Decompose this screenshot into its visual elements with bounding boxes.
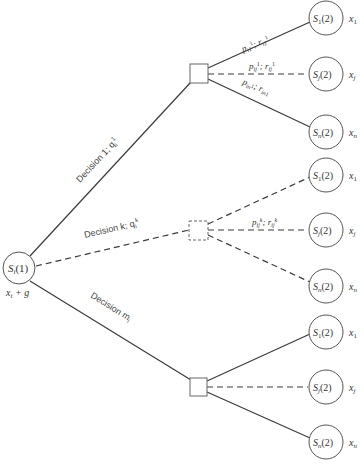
decision-1-label: Decision 1; qi1 bbox=[73, 135, 121, 185]
edge-label-d1-sj: pij1; rij1 bbox=[248, 61, 275, 72]
edge-dm-s1 bbox=[207, 334, 310, 381]
decision-node-k bbox=[189, 221, 208, 240]
decision-node-1 bbox=[190, 64, 208, 83]
decision-k-label: Decision k; qik bbox=[83, 216, 141, 240]
state-node-dk-s1: S1(2) x1 bbox=[309, 158, 357, 192]
state-node-dk-sj: Sj(2) xj bbox=[309, 213, 355, 247]
svg-text:xn: xn bbox=[348, 281, 357, 294]
svg-text:xn: xn bbox=[348, 127, 357, 140]
state-node-d1-s1: S1(2) x1 bbox=[309, 1, 357, 35]
svg-text:x1: x1 bbox=[348, 170, 357, 183]
state-node-dm-sj: Sj(2) xj bbox=[309, 370, 355, 404]
decision-m-label: Decision mi bbox=[88, 290, 133, 324]
svg-text:xj: xj bbox=[348, 225, 355, 238]
state-node-dk-sn: Sn(2) xn bbox=[309, 269, 357, 303]
edge-decision-m bbox=[30, 281, 191, 380]
decision-node-m bbox=[190, 378, 207, 396]
state-node-d1-sn: Sn(2) xn bbox=[309, 115, 357, 149]
edge-dm-sn bbox=[207, 392, 310, 438]
edge-label-d1-sn: pin1; rin1 bbox=[240, 76, 272, 97]
edge-dk-sn bbox=[208, 235, 310, 282]
root-value-label: xi + g bbox=[5, 287, 29, 300]
state-node-d1-sj: Sj(2) xj bbox=[309, 57, 355, 91]
svg-text:xj: xj bbox=[348, 382, 355, 395]
root-state-label: Si(1) bbox=[8, 262, 29, 276]
svg-text:x1: x1 bbox=[348, 13, 357, 26]
edge-decision-k bbox=[36, 230, 189, 266]
state-node-dm-s1: S1(2) x1 bbox=[309, 315, 357, 349]
svg-text:x1: x1 bbox=[348, 327, 357, 340]
decision-tree-diagram: Si(1) xi + g Decision 1; qi1 Decision k;… bbox=[0, 0, 364, 464]
edge-label-dk-sj: pijk; rijk bbox=[251, 217, 278, 228]
state-node-dm-sn: Sn(2) xn bbox=[309, 425, 357, 459]
svg-text:xn: xn bbox=[348, 437, 357, 450]
svg-text:xj: xj bbox=[348, 69, 355, 82]
edge-label-d1-s1: pi11; ri11 bbox=[239, 34, 271, 55]
